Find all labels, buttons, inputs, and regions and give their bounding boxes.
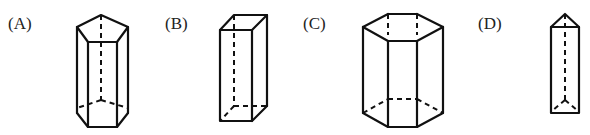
option-d-label: (D) <box>478 14 502 33</box>
option-c-label: (C) <box>303 14 326 33</box>
option-a-label: (A) <box>8 14 32 33</box>
option-c: (C) <box>303 14 443 127</box>
hexagonal-prism-icon <box>363 14 443 127</box>
prism-options-figure: (A) (B) <box>0 0 590 135</box>
triangular-prism-icon <box>551 14 579 113</box>
option-b: (B) <box>165 14 267 121</box>
option-d: (D) <box>478 14 579 113</box>
pentagonal-prism-icon <box>77 15 128 127</box>
option-b-label: (B) <box>165 14 188 33</box>
rectangular-prism-icon <box>220 15 267 121</box>
option-a: (A) <box>8 14 128 127</box>
